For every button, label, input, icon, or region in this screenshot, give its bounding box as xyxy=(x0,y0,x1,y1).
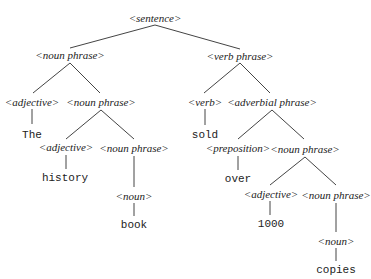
nonterminal-label: <preposition> xyxy=(206,142,271,154)
terminal-word: 1000 xyxy=(258,218,284,230)
nonterminal-label: <adjective> xyxy=(244,188,299,200)
tree-edge xyxy=(70,25,155,48)
nonterminal-label: <noun phrase> xyxy=(66,96,136,108)
tree-edge xyxy=(101,110,134,139)
tree-edge xyxy=(270,157,305,185)
tree-edge xyxy=(204,63,240,93)
nonterminal-label: <sentence> xyxy=(129,12,182,24)
terminal-word: copies xyxy=(316,264,356,276)
terminal-word: history xyxy=(42,172,88,184)
terminal-word: book xyxy=(121,219,147,231)
tree-edge xyxy=(240,63,270,93)
parse-tree-diagram: <sentence><noun phrase><verb phrase><adj… xyxy=(0,0,371,279)
nonterminal-label: <adjective> xyxy=(39,141,94,153)
nonterminal-label: <noun phrase> xyxy=(270,143,340,155)
terminal-word: sold xyxy=(192,129,218,141)
nonterminal-label: <verb> xyxy=(188,96,222,108)
nonterminal-label: <adverbial phrase> xyxy=(227,96,317,108)
nonterminal-label: <noun phrase> xyxy=(35,49,105,61)
tree-edge xyxy=(272,110,304,139)
nonterminal-label: <noun phrase> xyxy=(99,142,169,154)
tree-edge xyxy=(70,63,100,93)
tree-edge xyxy=(33,63,70,93)
nonterminal-label: <noun phrase> xyxy=(301,189,371,201)
tree-edge xyxy=(238,110,272,139)
nonterminal-label: <noun> xyxy=(116,190,153,202)
terminal-word: The xyxy=(22,129,42,141)
nonterminal-label: <verb phrase> xyxy=(206,50,273,62)
nonterminal-label: <noun> xyxy=(318,235,355,247)
tree-edge xyxy=(155,25,240,49)
nonterminal-label: <adjective> xyxy=(5,96,60,108)
tree-edges xyxy=(0,0,371,279)
tree-edge xyxy=(305,157,336,185)
terminal-word: over xyxy=(225,173,251,185)
tree-edge xyxy=(66,110,101,139)
